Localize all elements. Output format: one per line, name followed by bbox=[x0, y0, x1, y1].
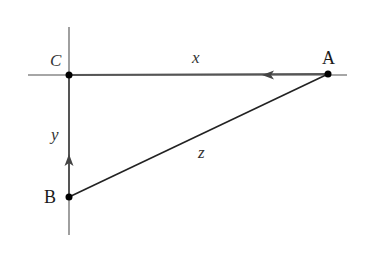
label-segment-x: x bbox=[191, 48, 200, 67]
label-segment-y: y bbox=[49, 125, 59, 144]
point-c bbox=[66, 72, 73, 79]
point-a bbox=[325, 71, 332, 78]
segment-z-hypotenuse bbox=[69, 74, 328, 197]
label-point-c: C bbox=[50, 51, 62, 70]
segment-x bbox=[69, 74, 328, 75]
label-point-a: A bbox=[322, 48, 335, 68]
label-segment-z: z bbox=[197, 143, 205, 162]
point-b bbox=[66, 194, 73, 201]
label-point-b: B bbox=[44, 187, 56, 207]
triangle-diagram: C A B x y z bbox=[0, 0, 369, 254]
